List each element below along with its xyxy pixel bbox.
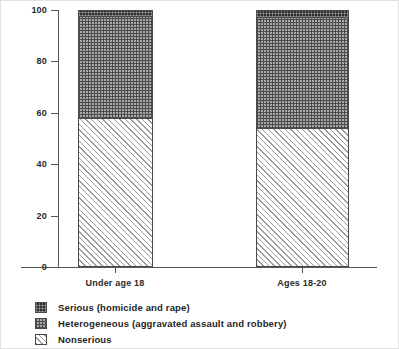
x-tick-label-ages-18-20: Ages 18-20 [252, 278, 352, 288]
y-tick-label-100: 100 [7, 6, 47, 15]
bar-segment-heterogeneous-ages-18-20 [256, 17, 349, 129]
x-tick-label-under-age-18: Under age 18 [65, 278, 165, 288]
y-tick-label-40: 40 [7, 160, 47, 169]
legend-label-serious: Serious (homicide and rape) [58, 302, 190, 313]
y-tick-mark-40 [51, 164, 58, 165]
chart-legend: Serious (homicide and rape) Heterogeneou… [35, 299, 365, 347]
x-tick-mark-ages-18-20 [302, 267, 303, 273]
y-tick-mark-0 [51, 267, 58, 268]
legend-item-serious: Serious (homicide and rape) [35, 299, 365, 315]
plot-area: 100 80 60 40 20 0 Under age 18 Ages 18-2… [1, 1, 399, 281]
legend-label-heterogeneous: Heterogeneous (aggravated assault and ro… [58, 318, 287, 329]
y-tick-label-20: 20 [7, 212, 47, 221]
x-tick-mark-under-age-18 [115, 267, 116, 273]
y-tick-mark-80 [51, 61, 58, 62]
y-tick-label-0: 0 [7, 263, 47, 272]
y-tick-label-60: 60 [7, 109, 47, 118]
chart-figure: 100 80 60 40 20 0 Under age 18 Ages 18-2… [0, 0, 399, 349]
y-tick-mark-60 [51, 113, 58, 114]
y-tick-mark-100 [51, 10, 58, 11]
bar-under-age-18 [78, 10, 153, 267]
serious-swatch-icon [35, 302, 47, 313]
legend-item-heterogeneous: Heterogeneous (aggravated assault and ro… [35, 315, 365, 331]
y-tick-mark-20 [51, 216, 58, 217]
legend-label-nonserious: Nonserious [58, 334, 112, 345]
bar-segment-nonserious-ages-18-20 [256, 128, 349, 267]
bar-segment-nonserious-under-age-18 [78, 118, 153, 267]
x-axis-line [21, 267, 377, 268]
bar-ages-18-20 [256, 10, 349, 267]
legend-item-nonserious: Nonserious [35, 331, 365, 347]
bar-segment-heterogeneous-under-age-18 [78, 16, 153, 119]
y-axis-line [58, 10, 59, 268]
heterogeneous-swatch-icon [35, 318, 47, 329]
nonserious-swatch-icon [35, 334, 47, 345]
y-tick-label-80: 80 [7, 57, 47, 66]
